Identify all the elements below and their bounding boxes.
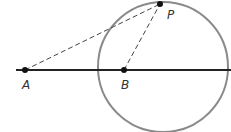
segment-BP <box>124 4 160 70</box>
segment-AP <box>25 4 160 70</box>
point-P <box>157 1 163 7</box>
label-P: P <box>167 8 175 22</box>
point-A <box>22 67 28 73</box>
geometry-figure: A B P <box>0 0 231 132</box>
point-B <box>121 67 127 73</box>
label-A: A <box>21 78 30 92</box>
circle <box>98 2 228 132</box>
label-B: B <box>121 78 129 92</box>
diagram-canvas: A B P <box>0 0 231 132</box>
